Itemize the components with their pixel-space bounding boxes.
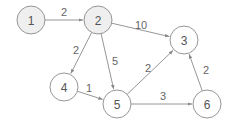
edge-weight-4-5: 1	[86, 82, 92, 94]
node-label: 2	[95, 14, 102, 28]
graph-diagram: 210251232 123456	[0, 0, 239, 131]
edge-weight-5-6: 3	[160, 90, 166, 102]
node-5: 5	[103, 90, 131, 118]
edge-weight-6-3: 2	[203, 64, 209, 76]
node-label: 3	[181, 34, 188, 48]
edge-weight-2-3: 10	[135, 19, 147, 31]
node-2: 2	[84, 6, 112, 34]
edge-weight-2-5: 5	[112, 55, 118, 67]
edge-weight-1-2: 2	[61, 6, 67, 18]
node-label: 4	[61, 81, 68, 95]
edge-weight-5-3: 2	[145, 62, 151, 74]
nodes-group: 123456	[17, 6, 221, 118]
node-4: 4	[50, 73, 78, 101]
node-label: 5	[114, 98, 121, 112]
node-6: 6	[193, 90, 221, 118]
node-3: 3	[170, 26, 198, 54]
node-label: 6	[204, 98, 211, 112]
edge-6-to-3	[189, 54, 202, 91]
edge-weight-2-4: 2	[73, 44, 79, 56]
node-label: 1	[28, 14, 35, 28]
node-1: 1	[17, 6, 45, 34]
